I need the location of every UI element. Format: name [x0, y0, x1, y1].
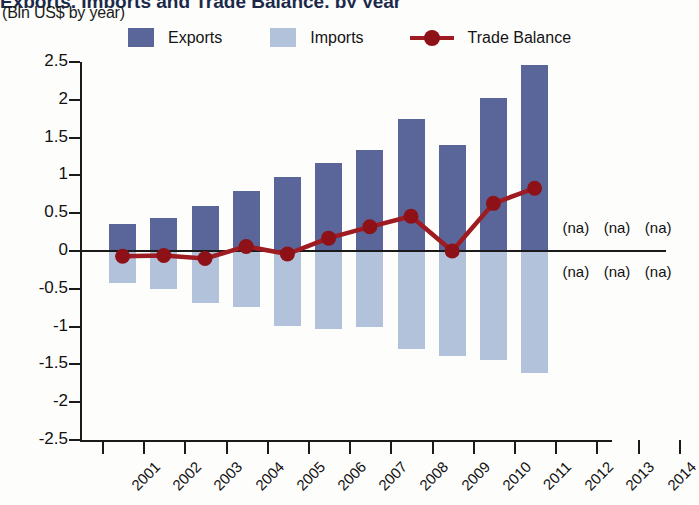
legend-label-exports: Exports [168, 29, 222, 47]
legend-item-trade-balance[interactable]: Trade Balance [410, 28, 571, 47]
y-axis-tick [69, 99, 80, 101]
y-axis-tick [69, 326, 80, 328]
bar-exports [315, 163, 342, 251]
bar-exports [274, 177, 301, 251]
bar-exports [356, 150, 383, 251]
y-axis-tick [69, 250, 80, 252]
x-axis-tick [596, 440, 598, 454]
x-axis-tick-label: 2012 [581, 458, 617, 494]
x-axis-tick [679, 440, 681, 454]
legend-item-imports[interactable]: Imports [270, 28, 363, 47]
na-label: (na) [645, 263, 672, 280]
y-axis-tick-label: -2.5 [6, 429, 68, 449]
y-axis-tick [69, 439, 80, 441]
x-axis-tick [390, 440, 392, 454]
legend-label-trade-balance: Trade Balance [468, 29, 571, 47]
bar-exports [192, 206, 219, 251]
bar-imports [192, 251, 219, 303]
na-label: (na) [604, 219, 631, 236]
x-axis-tick-label: 2008 [416, 458, 452, 494]
y-axis-tick-label: -0.5 [6, 278, 68, 298]
legend-swatch-exports [128, 28, 154, 47]
y-axis-tick [69, 137, 80, 139]
x-axis-tick [349, 440, 351, 454]
y-axis-tick [69, 363, 80, 365]
bar-imports [356, 251, 383, 327]
legend-label-imports: Imports [310, 29, 363, 47]
y-axis-tick-label: 0 [6, 240, 68, 260]
x-axis-tick [473, 440, 475, 454]
x-axis-tick [143, 440, 145, 454]
x-axis-tick-label: 2007 [375, 458, 411, 494]
x-axis-tick-label: 2005 [293, 458, 329, 494]
bar-exports [439, 145, 466, 251]
bar-imports [398, 251, 425, 349]
x-axis-tick [555, 440, 557, 454]
y-axis-tick-label: -2 [6, 391, 68, 411]
x-axis-tick-label: 2011 [539, 458, 574, 493]
y-axis-tick-label: 2 [6, 89, 68, 109]
chart-legend: Exports Imports Trade Balance [128, 28, 571, 47]
bar-imports [109, 251, 136, 283]
bar-exports [109, 224, 136, 251]
bar-exports [233, 191, 260, 251]
legend-swatch-trade-balance [410, 28, 454, 47]
na-label: (na) [562, 219, 589, 236]
x-axis-tick-label: 2010 [499, 458, 535, 494]
bar-exports [150, 218, 177, 251]
x-axis-tick-label: 2001 [128, 458, 164, 494]
y-axis-tick [69, 61, 80, 63]
x-axis-tick [226, 440, 228, 454]
y-axis-tick-label: 1 [6, 164, 68, 184]
y-axis-tick [69, 401, 80, 403]
y-axis-tick [69, 212, 80, 214]
y-axis-tick-label: 0.5 [6, 202, 68, 222]
plot-area: 2.521.510.50-0.5-1-1.5-2-2.5 (na)(na)(na… [80, 62, 608, 440]
y-axis-tick [69, 174, 80, 176]
bar-imports [274, 251, 301, 326]
x-axis-tick-label: 2002 [169, 458, 205, 494]
y-axis-tick-label: 2.5 [6, 51, 68, 71]
bar-exports [480, 98, 507, 251]
y-axis-tick-label: -1.5 [6, 353, 68, 373]
x-axis-tick [102, 440, 104, 454]
x-axis-tick-label: 2006 [334, 458, 370, 494]
na-label: (na) [562, 263, 589, 280]
y-axis-tick-label: 1.5 [6, 127, 68, 147]
x-axis-tick [638, 440, 640, 454]
x-axis-tick-label: 2004 [251, 458, 287, 494]
bar-imports [521, 251, 548, 373]
bar-imports [439, 251, 466, 356]
legend-swatch-imports [270, 28, 296, 47]
y-axis-tick [69, 288, 80, 290]
bar-imports [150, 251, 177, 289]
chart-subtitle: (Bln US$ by year) [2, 4, 125, 22]
zero-baseline [80, 250, 666, 252]
x-axis-tick-label: 2014 [663, 458, 699, 494]
x-axis-tick [184, 440, 186, 454]
y-axis-tick-label: -1 [6, 316, 68, 336]
legend-item-exports[interactable]: Exports [128, 28, 222, 47]
x-axis-tick [267, 440, 269, 454]
na-label: (na) [645, 219, 672, 236]
x-axis-line [80, 440, 612, 442]
x-axis-tick [514, 440, 516, 454]
na-label: (na) [604, 263, 631, 280]
bar-imports [233, 251, 260, 307]
x-axis-tick-label: 2003 [210, 458, 246, 494]
x-axis-tick-label: 2009 [457, 458, 493, 494]
x-axis-tick [308, 440, 310, 454]
legend-line-marker [424, 30, 440, 46]
bar-exports [398, 119, 425, 251]
bar-imports [315, 251, 342, 329]
x-axis-tick-label: 2013 [622, 458, 658, 494]
bar-imports [480, 251, 507, 360]
x-axis-tick [432, 440, 434, 454]
bar-exports [521, 65, 548, 251]
